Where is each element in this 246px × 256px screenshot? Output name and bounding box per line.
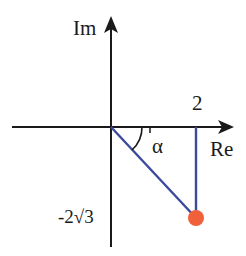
complex-point [188,210,204,226]
complex-plane-diagram: Im Re 2 α -2√3 [0,0,246,256]
angle-arc [132,127,142,150]
real-value-label: 2 [192,91,203,115]
angle-label: α [152,134,163,158]
imaginary-axis-label: Im [73,16,96,40]
imaginary-value-label: -2√3 [58,206,94,227]
real-axis-label: Re [210,137,233,161]
